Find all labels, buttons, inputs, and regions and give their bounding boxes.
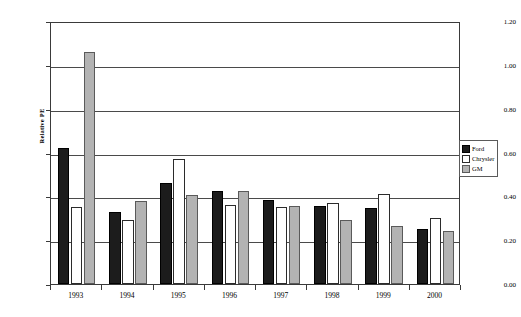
bar-ford-1997 (263, 200, 275, 284)
x-axis-tick-mark (460, 285, 461, 290)
bar-chrysler-1995 (173, 159, 185, 284)
x-axis-tick-mark (204, 285, 205, 290)
y-axis-tick-label: 0.80 (475, 106, 521, 114)
bar-chrysler-2000 (430, 218, 442, 284)
bar-ford-1995 (160, 183, 172, 284)
legend-label: GM (472, 165, 482, 173)
chart-figure: Relative PE 0.000.200.400.600.801.001.20… (0, 0, 521, 317)
x-axis-tick-mark (306, 285, 307, 290)
y-axis-tick-label: 0.00 (475, 281, 521, 289)
bar-chrysler-1993 (71, 207, 83, 284)
y-axis-tick-label: 0.40 (475, 193, 521, 201)
legend-item-ford: Ford (462, 144, 494, 153)
bar-chrysler-1997 (276, 207, 288, 284)
x-axis-tick-mark (153, 285, 154, 290)
plot-area (50, 22, 460, 285)
y-axis-tick-label: 1.20 (475, 18, 521, 26)
bar-chrysler-1994 (122, 220, 134, 284)
bar-gm-1993 (84, 52, 96, 284)
legend-item-chrysler: Chrysler (462, 154, 494, 163)
x-axis-tick-mark (50, 285, 51, 290)
bar-chrysler-1998 (327, 203, 339, 284)
y-axis-tick-label: 0.20 (475, 237, 521, 245)
bar-gm-1997 (289, 206, 301, 284)
bar-chrysler-1996 (225, 205, 237, 284)
bar-ford-1998 (314, 206, 326, 284)
bar-ford-1994 (109, 212, 121, 284)
x-axis-tick-mark (358, 285, 359, 290)
chart-legend: FordChryslerGM (459, 140, 498, 177)
bar-ford-2000 (417, 229, 429, 284)
bar-ford-1999 (365, 208, 377, 284)
legend-swatch-chrysler (462, 155, 470, 163)
x-axis-tick-mark (255, 285, 256, 290)
bar-gm-1995 (186, 195, 198, 284)
legend-swatch-ford (462, 145, 470, 153)
bar-gm-1994 (135, 201, 147, 284)
bar-gm-1999 (391, 226, 403, 284)
legend-item-gm: GM (462, 164, 494, 173)
bar-ford-1993 (58, 148, 70, 284)
legend-swatch-gm (462, 165, 470, 173)
x-axis-tick-mark (101, 285, 102, 290)
bar-gm-1998 (340, 220, 352, 284)
bar-gm-1996 (238, 191, 250, 284)
legend-label: Chrysler (472, 155, 494, 163)
bar-ford-1996 (212, 191, 224, 284)
x-axis-tick-mark (409, 285, 410, 290)
x-axis-tick-label: 2000 (404, 291, 464, 301)
y-axis-tick-label: 1.00 (475, 62, 521, 70)
legend-label: Ford (472, 145, 484, 153)
bar-gm-2000 (443, 231, 455, 284)
bars-layer (51, 23, 459, 284)
bar-chrysler-1999 (378, 194, 390, 284)
